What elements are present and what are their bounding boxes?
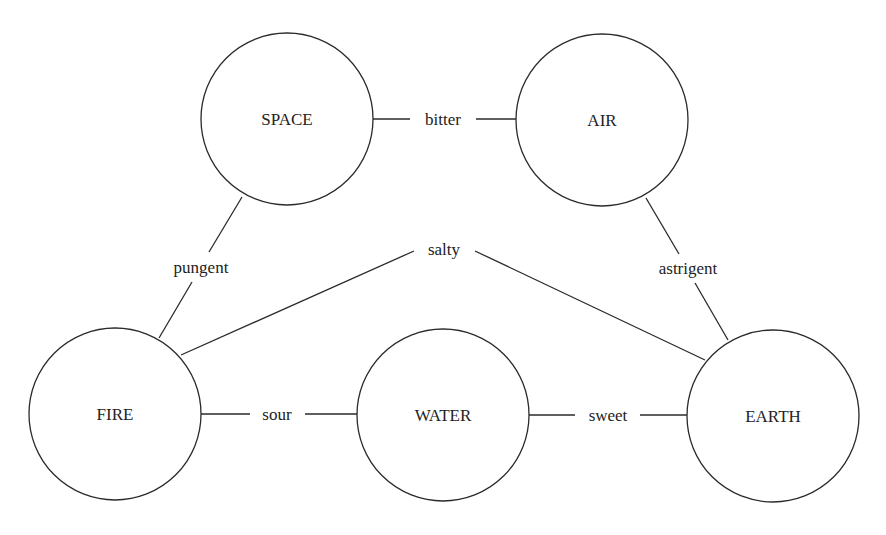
node-earth: EARTH xyxy=(687,330,859,502)
node-label-space: SPACE xyxy=(261,110,312,129)
edge-label-bitter: bitter xyxy=(425,110,461,129)
node-label-earth: EARTH xyxy=(745,407,801,426)
node-air: AIR xyxy=(516,34,688,206)
edge-label-pungent: pungent xyxy=(174,258,229,277)
edge-sweet: sweet xyxy=(529,406,687,425)
edge-label-sour: sour xyxy=(262,405,292,424)
node-label-air: AIR xyxy=(587,111,617,130)
edge-pungent: pungent xyxy=(159,197,242,338)
node-space: SPACE xyxy=(201,33,373,205)
edge-astrigent: astrigent xyxy=(646,198,728,340)
edge-label-sweet: sweet xyxy=(589,406,628,425)
node-label-water: WATER xyxy=(415,406,472,425)
element-taste-diagram: bitter pungent salty astrigent sour swee… xyxy=(0,0,886,535)
edge-label-astrigent: astrigent xyxy=(659,259,718,278)
node-label-fire: FIRE xyxy=(97,405,134,424)
edge-label-salty: salty xyxy=(428,240,461,259)
node-fire: FIRE xyxy=(29,328,201,500)
edge-sour: sour xyxy=(201,405,357,424)
edge-bitter: bitter xyxy=(373,110,516,129)
node-water: WATER xyxy=(357,329,529,501)
